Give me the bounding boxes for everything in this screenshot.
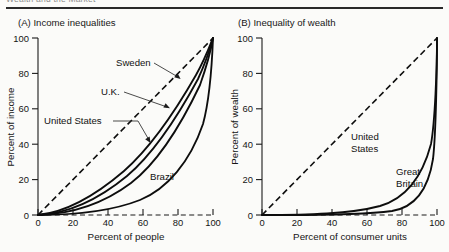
panel-a-annotation-united-states: United States: [44, 115, 151, 143]
panel-a-ytick-80: 80: [19, 68, 29, 79]
panel-a-ytick-40: 40: [19, 139, 29, 150]
panel-a-xtick-40: 40: [103, 217, 113, 228]
panel-b-ytick-20: 20: [243, 174, 253, 185]
panel-b-x-ticklabels: 0 20 40 60 80 100: [259, 217, 444, 228]
panel-a-xtick-20: 20: [68, 217, 78, 228]
panel-b-annotation-great-britain: Great Britain: [396, 166, 423, 189]
figure-page: Wealth and the Market (A) Income inequal…: [0, 0, 449, 252]
panel-a-ylabel: Percent of income: [5, 87, 16, 167]
panel-b-ylabel: Percent of wealth: [229, 89, 240, 165]
panel-a-annotation-sweden: Sweden: [116, 57, 181, 79]
panel-b-plot: 100 80 60 40 20 0 0 20: [222, 28, 449, 228]
panel-b-y-ticks: [256, 38, 262, 215]
panel-a-xtick-100: 100: [205, 217, 221, 228]
panel-a-svg: 100 80 60 40 20 0 0: [0, 28, 224, 228]
panel-a-xtick-60: 60: [138, 217, 148, 228]
panel-b-ytick-0: 0: [248, 210, 253, 221]
panel-a-xtick-80: 80: [173, 217, 183, 228]
chart-panel-a: (A) Income inequalities 100: [0, 0, 224, 252]
panel-b-ytick-80: 80: [243, 68, 253, 79]
panel-a-ytick-0: 0: [24, 210, 29, 221]
panel-b-xtick-0: 0: [259, 217, 264, 228]
panel-b-label-britain: Britain: [396, 178, 423, 189]
panel-b-label-united: UnitedStates: [351, 131, 379, 154]
panel-a-xtick-0: 0: [35, 217, 40, 228]
panel-b-xlabel: Percent of consumer units: [293, 231, 407, 242]
panel-b-ytick-100: 100: [237, 33, 253, 44]
panel-b-xtick-40: 40: [327, 217, 337, 228]
panel-a-ytick-60: 60: [19, 103, 29, 114]
panel-b-xtick-60: 60: [362, 217, 372, 228]
panel-a-label-sweden: Sweden: [116, 57, 151, 68]
chart-panel-b: (B) Inequality of wealth 100 80 60: [222, 0, 449, 252]
panel-b-label-great: Great: [396, 166, 420, 177]
panel-b-annotation-united-states: UnitedStates: [351, 131, 379, 154]
panel-a-plot: 100 80 60 40 20 0 0: [0, 28, 224, 228]
panel-a-x-ticklabels: 0 20 40 60 80 100: [35, 217, 220, 228]
panel-a-y-ticks: [32, 38, 38, 215]
panel-a-xlabel: Percent of people: [88, 231, 165, 242]
panel-b-xtick-20: 20: [292, 217, 302, 228]
panel-b-xtick-100: 100: [429, 217, 445, 228]
panel-b-title: (B) Inequality of wealth: [238, 17, 336, 28]
panel-b-xtick-80: 80: [397, 217, 407, 228]
panel-a-label-uk: U.K.: [101, 86, 120, 97]
panel-b-svg: 100 80 60 40 20 0 0 20: [222, 28, 449, 228]
panel-a-label-brazil: Brazil: [150, 171, 174, 182]
panel-a-label-united-states: United States: [44, 115, 102, 126]
panel-a-ytick-100: 100: [13, 33, 29, 44]
panel-b-ytick-40: 40: [243, 139, 253, 150]
panel-b-ytick-60: 60: [243, 103, 253, 114]
panel-a-title: (A) Income inequalities: [18, 17, 116, 28]
panel-a-annotation-uk: U.K.: [101, 86, 170, 108]
panel-a-ytick-20: 20: [19, 174, 29, 185]
